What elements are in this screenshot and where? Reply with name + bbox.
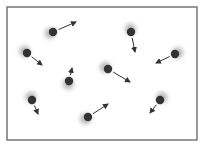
container-box <box>7 7 197 140</box>
particles-group <box>19 22 183 124</box>
particle-dot <box>156 96 164 104</box>
velocity-arrow-icon <box>132 38 135 52</box>
particle-box-diagram <box>0 0 201 147</box>
particle-dot <box>49 28 57 36</box>
particle-dot <box>84 113 92 121</box>
particle <box>150 92 167 113</box>
velocity-arrow-icon <box>113 72 130 82</box>
velocity-arrow-icon <box>70 68 72 75</box>
particle-dot <box>171 50 179 58</box>
particle-dot <box>127 28 135 36</box>
particle <box>125 24 136 52</box>
particle <box>45 22 76 39</box>
velocity-arrow-icon <box>156 57 170 63</box>
particle-dot <box>65 77 73 85</box>
velocity-arrow-icon <box>34 106 38 114</box>
velocity-arrow-icon <box>32 57 42 65</box>
velocity-arrow-icon <box>93 104 108 114</box>
particle-dot <box>104 65 112 73</box>
particle <box>63 68 74 89</box>
velocity-arrow-icon <box>150 105 156 113</box>
particle-dot <box>23 49 31 57</box>
particle-dot <box>28 96 36 104</box>
particle <box>100 62 130 82</box>
particle <box>19 46 42 65</box>
velocity-arrow-icon <box>59 22 76 30</box>
particle <box>156 47 183 63</box>
particle <box>80 104 108 124</box>
particle <box>25 92 38 114</box>
